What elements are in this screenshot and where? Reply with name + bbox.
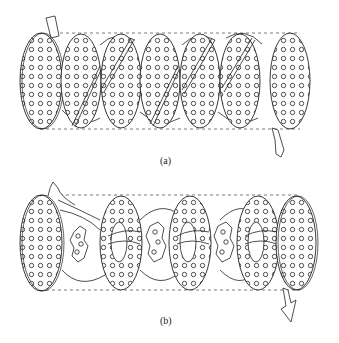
panel-b	[20, 182, 318, 322]
baffle-6	[220, 34, 260, 128]
disc-baffle-2	[146, 222, 166, 262]
inlet-arrow	[46, 16, 59, 38]
panel-b-label: (b)	[160, 315, 172, 326]
baffle-4	[140, 34, 180, 128]
disc-baffle-1	[70, 226, 88, 262]
doughnut-baffle-1	[100, 196, 142, 290]
doughnut-baffle-2	[169, 196, 211, 290]
panel-a	[20, 16, 310, 157]
baffle-3	[101, 34, 141, 128]
baffle-2	[61, 34, 101, 128]
disc-baffle-3	[214, 222, 234, 262]
baffle-1	[20, 33, 64, 129]
baffle-diagram	[0, 0, 339, 343]
panel-a-label: (a)	[160, 155, 171, 166]
baffle-end	[276, 196, 318, 290]
baffle-1	[20, 195, 64, 291]
outlet-arrow	[272, 128, 284, 157]
doughnut-baffle-3	[237, 196, 279, 290]
outlet-arrow	[281, 288, 296, 322]
baffle-7	[270, 33, 310, 129]
baffle-5	[180, 34, 220, 128]
